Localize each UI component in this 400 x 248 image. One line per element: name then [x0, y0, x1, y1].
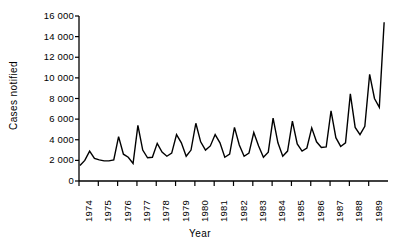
x-axis-tick-label: 1989: [373, 200, 384, 222]
x-axis-tick-label: 1985: [295, 200, 306, 222]
x-axis-tick-label: 1980: [199, 200, 210, 222]
y-axis-tick-label: 16 000: [24, 10, 74, 21]
x-axis-tick-label: 1987: [334, 200, 345, 222]
y-axis-tick-label: 14 000: [24, 31, 74, 42]
y-axis-tick-label: 6 000: [24, 113, 74, 124]
x-axis-title: Year: [0, 228, 400, 239]
x-axis-ticks: [79, 181, 369, 186]
x-axis-tick-label: 1988: [353, 200, 364, 222]
x-axis-tick-label: 1982: [238, 200, 249, 222]
x-axis-tick-label: 1979: [180, 200, 191, 222]
y-axis-tick-label: 8 000: [24, 93, 74, 104]
x-axis-tick-label: 1975: [102, 200, 113, 222]
chart-figure: 02 0004 0006 0008 00010 00012 00014 0001…: [0, 0, 400, 248]
x-axis-tick-label: 1986: [315, 200, 326, 222]
y-axis-tick-label: 10 000: [24, 72, 74, 83]
x-axis-tick-label: 1977: [141, 200, 152, 222]
x-axis-tick-label: 1981: [218, 200, 229, 222]
series-line-cases-notified: [80, 22, 384, 165]
y-axis-tick-label: 0: [24, 175, 74, 186]
x-axis-tick-label: 1974: [83, 200, 94, 222]
x-axis-tick-label: 1984: [276, 200, 287, 222]
x-axis-tick-label: 1983: [257, 200, 268, 222]
x-axis-tick-label: 1976: [122, 200, 133, 222]
y-axis-tick-label: 2 000: [24, 154, 74, 165]
y-axis-tick-label: 4 000: [24, 134, 74, 145]
x-axis-tick-label: 1978: [160, 200, 171, 222]
y-axis-tick-label: 12 000: [24, 51, 74, 62]
